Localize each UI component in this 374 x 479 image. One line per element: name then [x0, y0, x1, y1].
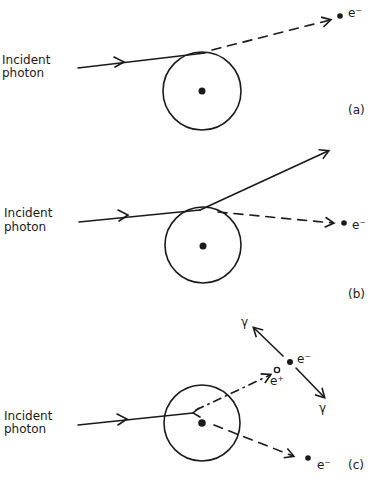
electron-track	[218, 212, 333, 223]
electron-label: e⁻	[352, 218, 366, 232]
panel-c: Incident photon e⁻ (c) e⁺ e⁻ γ γ	[4, 315, 364, 472]
panel-label: (a)	[348, 103, 365, 117]
panel-a: Incident photon e⁻ (a)	[2, 6, 365, 130]
photon-interaction-diagram: Incident photon e⁻ (a) Incident photon e…	[0, 0, 374, 479]
annihilation-electron-label: e⁻	[297, 352, 311, 366]
gamma-label-2: γ	[319, 401, 326, 415]
gamma-label-1: γ	[241, 315, 248, 329]
electron-dot	[337, 13, 343, 19]
gamma-ray-track-1	[254, 328, 283, 356]
incident-label: photon	[4, 422, 46, 436]
electron-label: e⁻	[317, 458, 331, 472]
nucleus	[198, 419, 206, 427]
panel-label: (b)	[348, 287, 365, 301]
nucleus	[200, 243, 207, 250]
electron-track	[214, 425, 293, 456]
electron-label: e⁻	[348, 6, 362, 20]
electron-dot	[341, 220, 347, 226]
electron-track	[212, 20, 330, 50]
positron-label: e⁺	[270, 374, 284, 388]
incident-photon-track	[78, 413, 193, 425]
incident-label: photon	[2, 66, 44, 80]
incident-label: Incident	[2, 53, 51, 67]
nucleus	[199, 88, 206, 95]
panel-b: Incident photon e⁻ (b)	[4, 151, 366, 301]
incident-photon-track	[79, 210, 200, 222]
scattered-photon-track	[200, 151, 328, 210]
positron-dot	[274, 367, 279, 372]
incident-label: Incident	[4, 206, 53, 220]
incident-label: photon	[4, 220, 46, 234]
positron-track	[196, 375, 270, 410]
incident-label: Incident	[4, 409, 53, 423]
gamma-ray-track-2	[296, 368, 324, 397]
direction-arrow-icon	[117, 414, 127, 425]
direction-arrow-icon	[118, 210, 128, 221]
electron-dot	[305, 455, 311, 461]
panel-label: (c)	[348, 458, 364, 472]
annihilation-electron-dot	[287, 359, 293, 365]
direction-arrow-icon	[114, 57, 124, 67]
